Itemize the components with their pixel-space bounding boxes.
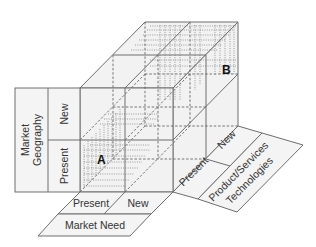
point-b-label: B — [222, 63, 231, 77]
market-need-title: Market Need — [65, 219, 125, 231]
market-geography-panel: Market Geography New Present — [15, 88, 80, 192]
market-geography-title-line1: Market — [19, 124, 31, 156]
cube-diagram: A B Market Geography New Present Present… — [0, 0, 316, 247]
market-geography-title-line2: Geography — [31, 113, 43, 166]
point-a-label: A — [97, 153, 106, 167]
need-new-label: New — [127, 197, 148, 209]
market-need-panel: Present New Market Need — [38, 192, 173, 236]
need-present-label: Present — [73, 197, 109, 209]
geography-new-label: New — [58, 103, 70, 124]
geography-present-label: Present — [58, 148, 70, 184]
